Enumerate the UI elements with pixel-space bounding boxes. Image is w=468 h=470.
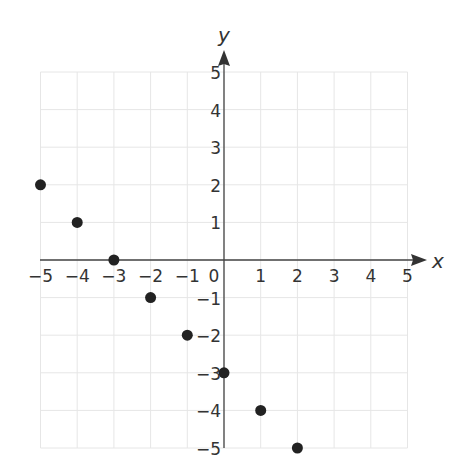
y-tick-label: −2 <box>196 326 221 346</box>
x-tick-label: 2 <box>292 266 303 286</box>
y-axis-label: y <box>217 23 231 47</box>
data-point <box>35 179 46 190</box>
axes: x y <box>40 23 444 448</box>
scatter-chart: x y −5−4−3−2−1012345 −5−4−3−2−112345 <box>0 0 468 470</box>
x-tick-label: −4 <box>65 266 90 286</box>
y-tick-label: −5 <box>196 439 221 459</box>
x-tick-label: 4 <box>365 266 376 286</box>
x-tick-label: −3 <box>101 266 126 286</box>
x-tick-label: −2 <box>138 266 163 286</box>
y-tick-label: 4 <box>210 101 221 121</box>
y-tick-label: 5 <box>210 63 221 83</box>
x-tick-label: 0 <box>209 266 220 286</box>
data-point <box>72 217 83 228</box>
y-tick-label: 2 <box>210 176 221 196</box>
data-points <box>35 179 303 453</box>
x-axis-label: x <box>431 249 444 273</box>
x-tick-label: −5 <box>28 266 53 286</box>
data-point <box>255 405 266 416</box>
x-axis-arrow-icon <box>411 254 427 266</box>
x-tick-label: 5 <box>402 266 413 286</box>
y-tick-labels: −5−4−3−2−112345 <box>196 63 221 459</box>
x-tick-label: 3 <box>329 266 340 286</box>
data-point <box>182 330 193 341</box>
data-point <box>145 292 156 303</box>
data-point <box>219 367 230 378</box>
y-tick-label: −3 <box>196 364 221 384</box>
x-tick-labels: −5−4−3−2−1012345 <box>28 266 413 286</box>
x-tick-label: −1 <box>175 266 200 286</box>
y-tick-label: 1 <box>210 213 221 233</box>
data-point <box>292 443 303 454</box>
y-tick-label: −4 <box>196 401 221 421</box>
data-point <box>108 255 119 266</box>
y-tick-label: −1 <box>196 289 221 309</box>
x-tick-label: 1 <box>255 266 266 286</box>
y-tick-label: 3 <box>210 138 221 158</box>
